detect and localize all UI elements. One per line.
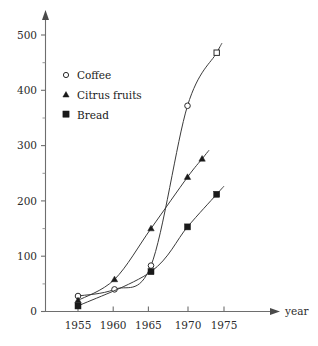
y-axis (42, 10, 49, 312)
series-layer (75, 43, 224, 309)
data-point-filled-square (214, 191, 220, 197)
x-tick-labels: 1955 1960 1965 1970 1975 (65, 319, 238, 331)
chart-canvas: 0 100 200 300 400 500 1955 1960 1965 197… (0, 0, 318, 346)
y-tick-label-500: 500 (17, 29, 37, 41)
legend-item-citrus-fruits[interactable]: Citrus fruits (63, 89, 142, 101)
y-tick-labels: 0 100 200 300 400 500 (17, 29, 37, 317)
x-tick-label-1970: 1970 (175, 319, 202, 331)
x-axis-arrow-icon (270, 308, 280, 315)
series-line (78, 43, 222, 296)
y-tick-label-0: 0 (30, 305, 37, 317)
y-tick-label-300: 300 (17, 139, 37, 151)
legend-label-bread: Bread (77, 109, 109, 121)
data-point-open-square (214, 50, 219, 55)
series-bread (75, 186, 224, 309)
series-coffee (75, 43, 222, 299)
legend: Coffee Citrus fruits Bread (63, 69, 142, 121)
legend-label-citrus-fruits: Citrus fruits (77, 89, 142, 101)
legend-item-coffee[interactable]: Coffee (63, 69, 111, 81)
filled-square-icon (63, 111, 69, 117)
x-tick-label-1965: 1965 (135, 319, 162, 331)
data-point-open-circle (148, 263, 154, 269)
open-circle-icon (63, 72, 68, 77)
y-tick-label-200: 200 (17, 195, 37, 207)
data-point-filled-square (75, 303, 81, 309)
series-line (78, 186, 224, 306)
y-tick-label-400: 400 (17, 84, 37, 96)
legend-item-bread[interactable]: Bread (63, 109, 109, 121)
line-chart: 0 100 200 300 400 500 1955 1960 1965 197… (0, 0, 318, 346)
data-point-filled-square (148, 269, 154, 275)
data-point-filled-square (185, 224, 191, 230)
y-tick-label-100: 100 (17, 250, 37, 262)
y-axis-arrow-icon (42, 10, 49, 20)
x-tick-label-1955: 1955 (65, 319, 92, 331)
legend-label-coffee: Coffee (77, 69, 111, 81)
x-tick-label-1975: 1975 (211, 319, 238, 331)
x-axis-title: year (284, 305, 309, 317)
x-tick-label-1960: 1960 (100, 319, 127, 331)
data-point-open-circle (185, 103, 191, 109)
x-major-ticks (78, 307, 224, 312)
filled-triangle-icon (63, 92, 69, 97)
